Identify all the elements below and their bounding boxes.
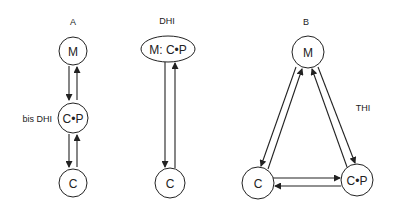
node-a-c-label: C: [69, 177, 78, 191]
panel-dhi-title: DHI: [159, 16, 175, 26]
panel-b: B M THI C C•P: [242, 17, 373, 199]
node-a-cp-label: C•P: [63, 112, 84, 126]
panel-dhi: DHI M: C•P C: [141, 16, 195, 198]
node-b-m-label: M: [303, 46, 313, 60]
node-dhi-c-label: C: [166, 177, 175, 191]
node-b-cp-label: C•P: [347, 174, 368, 188]
node-a-m-label: M: [68, 45, 78, 59]
arrow-b-m-to-cp: [318, 67, 355, 163]
panel-a-title: A: [70, 17, 76, 27]
diagram-canvas: A M C•P bis DHI C DHI M: C•P C B M THI: [0, 0, 396, 213]
panel-a: A M C•P bis DHI C: [22, 17, 88, 197]
panel-b-side-label: THI: [356, 103, 371, 113]
node-b-c-label: C: [254, 177, 263, 191]
node-dhi-complex-label: M: C•P: [149, 43, 187, 57]
panel-b-title: B: [303, 17, 309, 27]
arrow-b-m-to-c: [261, 67, 296, 166]
arrow-b-cp-to-m: [312, 69, 347, 167]
panel-a-side-label: bis DHI: [22, 114, 52, 124]
arrow-b-c-to-m: [268, 69, 302, 169]
